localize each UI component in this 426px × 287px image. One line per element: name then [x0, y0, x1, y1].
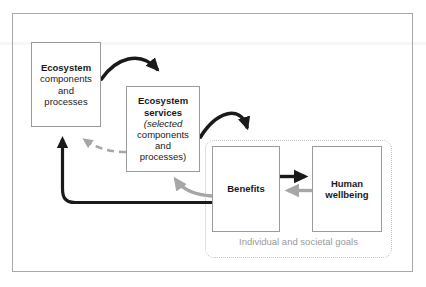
node-ecosystem-line3: and — [58, 85, 74, 96]
node-ecosystem: Ecosystem components and processes — [31, 42, 101, 127]
node-human-wellbeing: Human wellbeing — [312, 146, 382, 232]
edge-ecosystem-to-services — [102, 58, 158, 79]
node-benefits: Benefits — [212, 146, 280, 232]
individual-societal-goals-label: Individual and societal goals — [205, 236, 392, 247]
node-services-line5: and — [155, 140, 171, 151]
edge-benefits-to-services-feedback — [176, 180, 212, 196]
edge-services-to-benefits — [201, 113, 248, 137]
node-services-line4: components — [137, 129, 189, 140]
node-services-title-line1: Ecosystem — [138, 95, 188, 106]
node-ecosystem-title: Ecosystem — [41, 62, 91, 73]
node-services-line6: processes) — [140, 151, 186, 162]
node-ecosystem-line2: components — [40, 73, 92, 84]
node-services-line3: (selected — [144, 118, 183, 129]
node-ecosystem-line4: processes — [44, 96, 87, 107]
edge-services-to-ecosystem-dashed — [85, 140, 126, 152]
node-human-wellbeing-line2: wellbeing — [325, 189, 368, 200]
node-human-wellbeing-line1: Human — [331, 178, 363, 189]
node-ecosystem-services: Ecosystem services (selected components … — [126, 86, 200, 172]
node-benefits-title: Benefits — [227, 183, 264, 194]
diagram-canvas: Ecosystem components and processes Ecosy… — [0, 0, 426, 287]
node-services-title-line2: services — [144, 107, 182, 118]
